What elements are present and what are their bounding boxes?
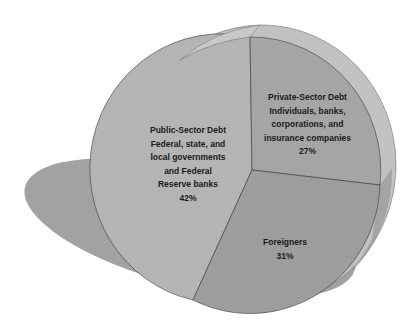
label-percent: 42%: [128, 192, 248, 206]
label-percent: 31%: [245, 250, 325, 264]
label-private-sector: Private-Sector Debt Individuals, banks, …: [250, 91, 365, 159]
label-line: insurance companies: [250, 132, 365, 146]
label-foreigners: Foreigners 31%: [245, 236, 325, 263]
label-percent: 27%: [250, 145, 365, 159]
label-line: local governments: [128, 151, 248, 165]
label-line: corporations, and: [250, 118, 365, 132]
label-line: and Federal: [128, 165, 248, 179]
label-line: Individuals, banks,: [250, 105, 365, 119]
label-line: Reserve banks: [128, 178, 248, 192]
label-line: Public-Sector Debt: [128, 124, 248, 138]
label-line: Federal, state, and: [128, 138, 248, 152]
label-public-sector: Public-Sector Debt Federal, state, and l…: [128, 124, 248, 205]
label-line: Foreigners: [245, 236, 325, 250]
label-line: Private-Sector Debt: [250, 91, 365, 105]
